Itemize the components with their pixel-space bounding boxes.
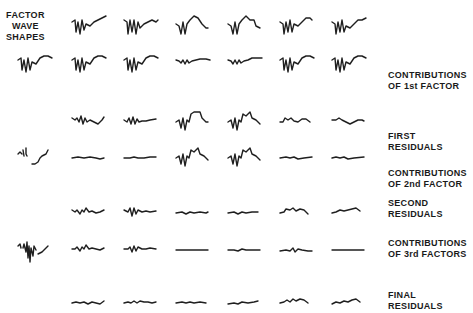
row-label-line: FINAL (388, 290, 443, 301)
factor2-contribution-wave (228, 144, 264, 170)
first-residual-wave (72, 112, 108, 132)
factor3-contribution-wave (228, 243, 264, 257)
row-label-res2: SECOND RESIDUALS (388, 198, 443, 220)
factor1-contribution-wave (280, 52, 316, 78)
observed-wave (72, 14, 108, 40)
row-label-line: RESIDUALS (388, 142, 443, 153)
factor3-contribution-wave (176, 243, 212, 257)
row-label-line: SECOND (388, 198, 443, 209)
final-residual-wave (124, 296, 160, 310)
first-residual-wave (280, 112, 316, 132)
final-residual-wave (228, 296, 264, 310)
row-label-line: CONTRIBUTIONS (388, 238, 467, 249)
factor-1-shape (18, 52, 54, 78)
cropped-title-text (130, 0, 350, 1)
second-residual-wave (176, 206, 212, 220)
row-label-line: RESIDUALS (388, 209, 443, 220)
factor-2-shape (16, 142, 56, 170)
final-residual-wave (332, 294, 368, 310)
factor3-contribution-wave (124, 241, 160, 259)
observed-wave (124, 14, 160, 40)
factor1-contribution-wave (332, 52, 368, 78)
first-residual-wave (332, 112, 368, 132)
first-residual-wave (176, 108, 212, 134)
final-residual-wave (280, 294, 316, 310)
factor2-contribution-wave (72, 150, 108, 166)
factor1-contribution-wave (228, 52, 264, 78)
second-residual-wave (72, 204, 108, 222)
observed-wave (228, 14, 264, 40)
second-residual-wave (280, 204, 316, 222)
factor3-contribution-wave (72, 241, 108, 259)
row-label-factor1: CONTRIBUTIONS OF 1st FACTOR (388, 70, 467, 92)
factor2-contribution-wave (124, 150, 160, 166)
first-residual-wave (228, 108, 264, 134)
observed-wave (280, 14, 316, 40)
corner-label-line: SHAPES (6, 32, 45, 43)
factor-3-shape (16, 238, 56, 268)
factor-wave-shapes-label: FACTOR WAVE SHAPES (6, 10, 45, 43)
row-label-factor2: CONTRIBUTIONS OF 2nd FACTOR (388, 168, 467, 190)
second-residual-wave (228, 206, 264, 220)
factor3-contribution-wave (280, 243, 316, 257)
factor3-contribution-wave (332, 243, 368, 257)
factor2-contribution-wave (176, 144, 212, 170)
final-residual-wave (72, 296, 108, 310)
first-residual-wave (124, 112, 160, 132)
row-label-line: OF 3rd FACTORS (388, 249, 467, 260)
corner-label-line: WAVE (6, 21, 45, 32)
observed-wave (332, 14, 368, 40)
row-label-line: FIRST (388, 131, 443, 142)
corner-label-line: FACTOR (6, 10, 45, 21)
factor2-contribution-wave (280, 150, 316, 166)
factor1-contribution-wave (124, 52, 160, 78)
row-label-line: CONTRIBUTIONS (388, 70, 467, 81)
row-label-line: OF 2nd FACTOR (388, 179, 467, 190)
second-residual-wave (332, 204, 368, 222)
row-label-line: OF 1st FACTOR (388, 81, 467, 92)
final-residual-wave (176, 296, 212, 310)
row-label-line: RESIDUALS (388, 301, 443, 312)
second-residual-wave (124, 204, 160, 222)
factor2-contribution-wave (332, 150, 368, 166)
row-label-final: FINAL RESIDUALS (388, 290, 443, 312)
factor1-contribution-wave (72, 52, 108, 78)
row-label-res1: FIRST RESIDUALS (388, 131, 443, 153)
row-label-factor3: CONTRIBUTIONS OF 3rd FACTORS (388, 238, 467, 260)
observed-wave (176, 14, 212, 40)
factor1-contribution-wave (176, 52, 212, 78)
row-label-line: CONTRIBUTIONS (388, 168, 467, 179)
